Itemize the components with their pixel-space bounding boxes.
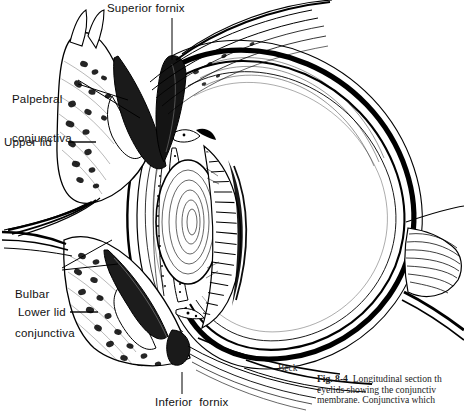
caption-text-1: Longitudinal section th: [353, 374, 442, 384]
caption-line-3: membrane. Conjunctiva which: [317, 395, 464, 406]
label-inferior-fornix: Inferior fornix: [155, 396, 229, 409]
caption-figure-number: Fig. 8-4: [317, 374, 348, 384]
label-bulbar-conjunctiva-line1: Bulbar: [15, 288, 75, 301]
caption-line-1: Fig. 8-4 Longitudinal section th: [317, 374, 464, 385]
artist-signature: Beck: [278, 363, 298, 373]
label-bulbar-conjunctiva-line2: conjunctiva: [15, 327, 75, 340]
label-superior-fornix: Superior fornix: [107, 2, 185, 15]
figure-caption: Fig. 8-4 Longitudinal section th eyelids…: [317, 374, 464, 414]
label-upper-lid: Upper lid: [4, 136, 52, 149]
label-lower-lid: Lower lid: [18, 306, 66, 319]
label-palpebral-conjunctiva-line1: Palpebral: [12, 93, 72, 106]
